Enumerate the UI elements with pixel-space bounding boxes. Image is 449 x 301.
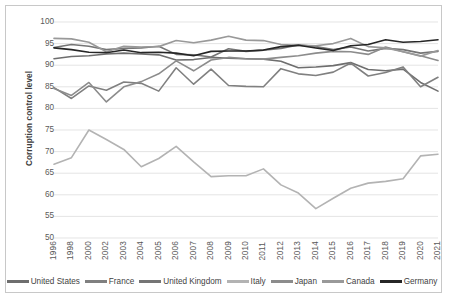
- x-axis-tick: 2006: [172, 241, 180, 260]
- x-axis-tick: 1996: [50, 241, 58, 260]
- legend-item-japan[interactable]: Japan: [270, 277, 321, 286]
- x-axis-tick: 2015: [329, 241, 337, 260]
- x-axis-tick: 2018: [382, 241, 390, 260]
- x-axis-tick: 2005: [155, 241, 163, 260]
- x-axis-tick: 2008: [207, 241, 215, 260]
- x-axis-tick: 2009: [225, 241, 233, 260]
- legend-swatch: [7, 280, 29, 282]
- x-axis-tick: 2003: [120, 241, 128, 260]
- x-axis-tick: 2017: [364, 241, 372, 260]
- x-axis-tick: 2016: [347, 241, 355, 260]
- legend-swatch: [271, 280, 293, 282]
- x-axis-tick-labels: 1996199820002002200320042005200620072008…: [6, 6, 441, 292]
- legend-item-united-states[interactable]: United States: [6, 277, 84, 286]
- x-axis-tick: 2011: [259, 242, 267, 260]
- x-axis-tick: 2012: [277, 241, 285, 260]
- x-axis-tick: 1998: [67, 241, 75, 260]
- x-axis-tick: 2010: [242, 241, 250, 260]
- legend-label: Germany: [404, 277, 441, 286]
- legend-swatch: [85, 280, 107, 282]
- legend-swatch: [322, 280, 344, 282]
- legend-label: Canada: [346, 277, 378, 286]
- x-axis-tick: 2007: [190, 241, 198, 260]
- x-axis-tick: 2014: [312, 241, 320, 260]
- legend-swatch: [380, 280, 402, 282]
- legend-item-france[interactable]: France: [84, 277, 138, 286]
- chart-screenshot: Corruption control level 100959085807570…: [0, 0, 449, 301]
- x-axis-tick: 2000: [85, 241, 93, 260]
- legend-label: United States: [31, 277, 83, 286]
- x-axis-tick: 2021: [434, 241, 442, 260]
- x-axis-tick: 2019: [399, 241, 407, 260]
- legend-label: Japan: [295, 277, 320, 286]
- legend-item-germany[interactable]: Germany: [379, 277, 442, 286]
- x-axis-tick: 2013: [294, 241, 302, 260]
- legend-item-canada[interactable]: Canada: [321, 277, 379, 286]
- legend-label: United Kingdom: [163, 277, 224, 286]
- legend-label: Italy: [251, 277, 269, 286]
- legend-swatch: [227, 280, 249, 282]
- x-axis-tick: 2020: [417, 241, 425, 260]
- legend-label: France: [109, 277, 137, 286]
- chart-container: Corruption control level 100959085807570…: [5, 5, 442, 293]
- legend-item-united-kingdom[interactable]: United Kingdom: [138, 277, 225, 286]
- legend-swatch: [139, 280, 161, 282]
- chart-legend: United StatesFranceUnited KingdomItalyJa…: [6, 277, 441, 286]
- x-axis-tick: 2002: [102, 241, 110, 260]
- x-axis-tick: 2004: [137, 241, 145, 260]
- legend-item-italy[interactable]: Italy: [226, 277, 270, 286]
